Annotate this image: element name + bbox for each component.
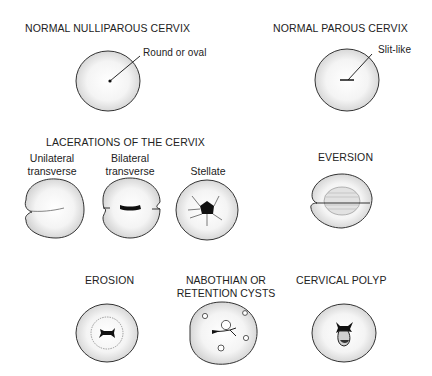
bilateral-laceration-icon — [103, 178, 160, 238]
stellate-laceration-icon — [176, 180, 238, 240]
unilateral-laceration-icon — [25, 179, 84, 238]
cervix-illustrations — [0, 0, 432, 376]
eversion-icon — [311, 174, 372, 228]
nulliparous-cervix-icon — [76, 51, 140, 111]
cervical-polyp-icon — [312, 304, 376, 362]
parous-cervix-icon — [315, 49, 379, 111]
nabothian-cysts-icon — [190, 302, 257, 364]
erosion-icon — [76, 304, 138, 362]
